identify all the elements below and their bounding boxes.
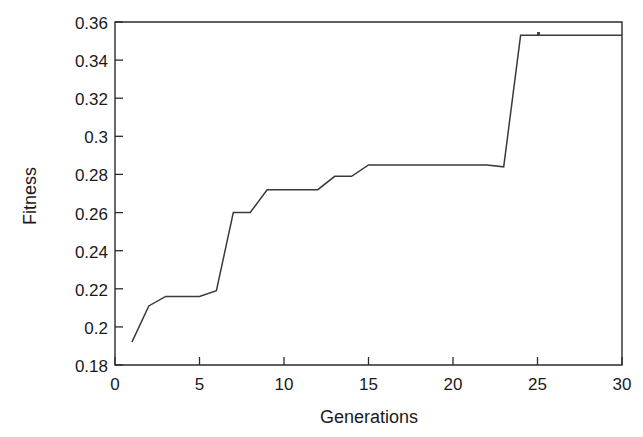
y-tick-label-0.26: 0.26 <box>75 205 108 224</box>
y-axis-tick-labels: 0.36 0.34 0.32 0.3 0.28 0.26 0.24 0.22 0… <box>75 14 108 376</box>
y-tick-label-0.2: 0.2 <box>84 319 108 338</box>
x-tick-label-10: 10 <box>275 375 294 394</box>
x-tick-label-20: 20 <box>444 375 463 394</box>
scan-speck <box>537 32 540 35</box>
y-tick-label-0.34: 0.34 <box>75 52 108 71</box>
fitness-curve-series-0 <box>132 35 622 342</box>
x-axis-tick-labels: 0 5 10 15 20 25 30 <box>110 375 631 394</box>
y-axis-ticks <box>115 22 123 365</box>
y-tick-label-0.3: 0.3 <box>84 128 108 147</box>
y-tick-label-0.18: 0.18 <box>75 357 108 376</box>
figure-container: 0.36 0.34 0.32 0.3 0.28 0.26 0.24 0.22 0… <box>0 0 643 437</box>
y-tick-label-0.22: 0.22 <box>75 281 108 300</box>
x-axis-title: Generations <box>320 407 418 427</box>
y-tick-label-0.24: 0.24 <box>75 243 108 262</box>
x-tick-label-0: 0 <box>110 375 119 394</box>
x-axis-ticks <box>115 357 622 365</box>
plot-frame <box>115 22 622 365</box>
x-tick-label-30: 30 <box>613 375 632 394</box>
y-tick-label-0.28: 0.28 <box>75 166 108 185</box>
x-tick-label-15: 15 <box>359 375 378 394</box>
y-axis-title: Fitness <box>20 167 40 225</box>
fitness-vs-generations-chart: 0.36 0.34 0.32 0.3 0.28 0.26 0.24 0.22 0… <box>0 0 643 437</box>
y-tick-label-0.32: 0.32 <box>75 90 108 109</box>
x-tick-label-25: 25 <box>528 375 547 394</box>
x-tick-label-5: 5 <box>195 375 204 394</box>
y-tick-label-0.36: 0.36 <box>75 14 108 33</box>
